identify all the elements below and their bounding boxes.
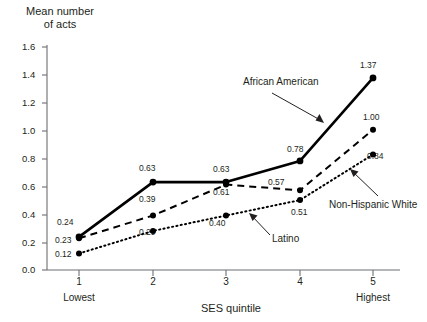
plot-canvas <box>0 0 427 322</box>
leader-african-american <box>272 93 324 123</box>
leader-non-hispanic-white <box>350 169 378 196</box>
chart-figure: Mean number of acts 1.6 1.4 1.2 1.0 0.8 … <box>0 0 427 322</box>
x-axis-ticks <box>79 270 373 276</box>
series-latino <box>76 152 376 257</box>
leader-latino <box>249 213 270 235</box>
y-axis-ticks <box>42 47 47 270</box>
